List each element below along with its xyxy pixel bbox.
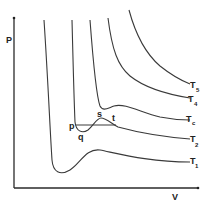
svg-text:5: 5 [196,87,200,93]
isotherm-t1 [44,20,190,173]
point-label-p: p [69,121,75,131]
y-axis-arrow-tip [13,17,16,20]
isotherm-tc [90,20,190,120]
point-label-t: t [112,113,115,123]
point-label-s: s [97,109,102,119]
isotherm-t5 [129,10,190,84]
svg-text:c: c [192,120,196,126]
label-tc: T c [186,114,196,126]
label-t4: T 4 [188,94,198,107]
label-t1: T 1 [190,156,199,169]
x-axis-label: V [172,192,178,202]
svg-text:4: 4 [194,101,198,107]
label-t2: T 2 [190,134,199,148]
y-axis-label: P [6,35,12,45]
x-axis-arrow-tip [197,187,200,190]
point-label-q: q [78,132,84,142]
isotherm-t2 [72,20,190,139]
svg-text:2: 2 [195,142,199,148]
pv-isotherm-diagram: P V T 5 T 4 T c T 2 T 1 p q s t [0,0,204,205]
svg-text:1: 1 [195,163,199,169]
isotherm-t4 [108,18,190,98]
label-t5: T 5 [190,80,200,93]
